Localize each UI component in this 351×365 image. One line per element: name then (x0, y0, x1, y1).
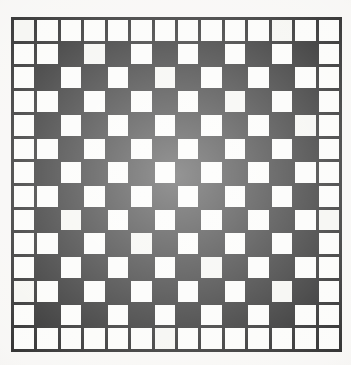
grid-cell (178, 186, 198, 207)
grid-cell (131, 67, 151, 88)
grid-cell (14, 305, 34, 326)
grid-cell (272, 139, 292, 160)
grid-cell (178, 210, 198, 231)
grid-cell (108, 328, 128, 349)
grid-cell (178, 328, 198, 349)
grid-cell (14, 20, 34, 41)
grid-cell (178, 115, 198, 136)
grid-cell (319, 162, 339, 183)
grid-cell (155, 233, 175, 254)
grid-cell (319, 91, 339, 112)
grid-cell (201, 91, 221, 112)
grid-cell (295, 257, 315, 278)
figure-root (0, 0, 351, 365)
grid-cell (225, 162, 245, 183)
grid-cell (295, 328, 315, 349)
grid-cell (61, 281, 81, 302)
grid-cell (37, 257, 57, 278)
grid-cell (178, 257, 198, 278)
grid-cell (295, 115, 315, 136)
grid-cell (319, 328, 339, 349)
grid-cell (84, 257, 104, 278)
grid-cell (248, 91, 268, 112)
grid-cell (225, 233, 245, 254)
grid-cell (201, 186, 221, 207)
grid-cell (155, 44, 175, 65)
grid-cell (131, 115, 151, 136)
grid-cell (201, 305, 221, 326)
grid-cell (319, 44, 339, 65)
grid-cell (201, 210, 221, 231)
grid-cell (61, 139, 81, 160)
grid-cell (225, 328, 245, 349)
grid-cell (61, 115, 81, 136)
grid-cell (155, 305, 175, 326)
grid-cell (84, 67, 104, 88)
grid-cell (201, 162, 221, 183)
grid-cell (131, 91, 151, 112)
grid-cell (108, 162, 128, 183)
grid-cell (131, 257, 151, 278)
grid-cell (248, 139, 268, 160)
grid-cell (201, 139, 221, 160)
grid-cell (131, 162, 151, 183)
grid-cell (14, 162, 34, 183)
grid-cell (295, 20, 315, 41)
grid-cell (178, 305, 198, 326)
grid-cell (84, 281, 104, 302)
grid-cell (319, 305, 339, 326)
grid-cell (155, 281, 175, 302)
grid-cell (155, 91, 175, 112)
grid-cell (319, 257, 339, 278)
grid-cell (131, 186, 151, 207)
grid-cell (272, 67, 292, 88)
grid-cell (84, 305, 104, 326)
grid-cell (319, 20, 339, 41)
grid-cell (178, 139, 198, 160)
grid-cell (108, 210, 128, 231)
grid-cell (201, 328, 221, 349)
grid-cell (295, 162, 315, 183)
grid-cell (272, 44, 292, 65)
grid-cell (155, 162, 175, 183)
grid-cell (248, 210, 268, 231)
grid-cell (131, 305, 151, 326)
grid-cell (37, 305, 57, 326)
grid-cell (61, 44, 81, 65)
grid-cell (108, 281, 128, 302)
grid-cell (178, 281, 198, 302)
grid-cell (178, 20, 198, 41)
grid-cell (14, 44, 34, 65)
grid-cell (319, 233, 339, 254)
grid-cell (84, 20, 104, 41)
grid-cell (14, 210, 34, 231)
grid-cell (37, 139, 57, 160)
grid-cell (178, 162, 198, 183)
grid-cell (248, 44, 268, 65)
grid-cell (61, 233, 81, 254)
grid-cell (201, 281, 221, 302)
grid-cell (319, 210, 339, 231)
grid-cell (319, 115, 339, 136)
grid-cell (131, 328, 151, 349)
grid-cell (37, 91, 57, 112)
grid-cell (108, 257, 128, 278)
grid-cell (84, 44, 104, 65)
grid-cell (248, 20, 268, 41)
grid-cell (178, 91, 198, 112)
grid-cell (37, 20, 57, 41)
grid-cell (131, 139, 151, 160)
grid-cell (225, 67, 245, 88)
grid-cell (178, 233, 198, 254)
grid-cell (201, 233, 221, 254)
grid-cell (155, 328, 175, 349)
grid-cell (61, 210, 81, 231)
grid-cell (37, 67, 57, 88)
grid-cell (272, 20, 292, 41)
grid-cell (248, 186, 268, 207)
grid-cell (108, 186, 128, 207)
grid-cell (61, 305, 81, 326)
grid-cell (84, 115, 104, 136)
grid-cell (61, 91, 81, 112)
grid-cell (155, 115, 175, 136)
